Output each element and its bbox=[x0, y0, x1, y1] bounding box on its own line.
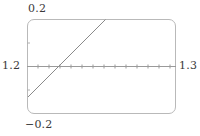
x-max-label: 1.3 bbox=[179, 60, 197, 71]
plot-screenshot: 0.2 −0.2 1.2 1.3 bbox=[0, 0, 200, 136]
x-min-label: 1.2 bbox=[2, 60, 20, 71]
plot-canvas bbox=[0, 0, 200, 136]
y-min-label: −0.2 bbox=[25, 119, 53, 130]
plot-line bbox=[28, 18, 107, 97]
y-max-label: 0.2 bbox=[28, 3, 46, 14]
